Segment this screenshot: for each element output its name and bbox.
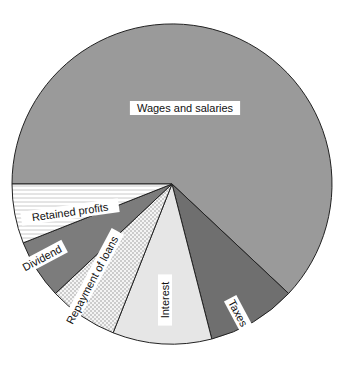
pie-chart: Wages and salariesTaxesInterestRepayment… xyxy=(0,0,346,367)
svg-text:Wages and salaries: Wages and salaries xyxy=(137,102,234,114)
slice-label: Interest xyxy=(158,274,172,325)
svg-text:Interest: Interest xyxy=(159,282,171,319)
slice-label: Wages and salaries xyxy=(130,101,240,115)
